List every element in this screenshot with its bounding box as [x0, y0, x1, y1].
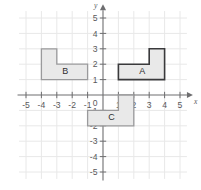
y-axis-tick-label: 3	[93, 44, 98, 54]
y-axis-tick-label: 2	[93, 59, 98, 69]
coordinate-plane-svg: -5-4-3-2-112345-5-4-3-2-1123450xyABC	[0, 0, 201, 190]
shape-label-b: B	[62, 66, 68, 76]
x-axis-name: x	[193, 97, 198, 106]
x-axis-tick-label: 4	[162, 100, 167, 110]
shape-label-c: C	[108, 112, 115, 122]
y-axis-tick-label: -5	[90, 167, 98, 177]
x-axis-tick-label: -2	[68, 100, 76, 110]
x-axis-tick-label: -5	[22, 100, 30, 110]
y-axis-tick-label: 4	[93, 29, 98, 39]
x-axis-tick-label: -4	[38, 100, 46, 110]
x-axis-tick-label: 3	[147, 100, 152, 110]
shape-b: B	[41, 49, 87, 80]
x-axis-arrow-icon	[187, 92, 193, 98]
y-axis-tick-label: -4	[90, 152, 98, 162]
axis-names: xy	[93, 1, 198, 106]
origin-label: 0	[93, 98, 98, 108]
y-axis-tick-label: 5	[93, 13, 98, 23]
shape-a: A	[118, 49, 164, 80]
y-axis-name: y	[93, 1, 98, 10]
y-axis-tick-label: -3	[90, 136, 98, 146]
x-axis-tick-label: 5	[178, 100, 183, 110]
y-axis-tick-label: 1	[93, 75, 98, 85]
axes	[18, 4, 193, 180]
y-axis-arrow-icon	[100, 4, 106, 10]
coordinate-plane-figure: -5-4-3-2-112345-5-4-3-2-1123450xyABC	[0, 0, 201, 190]
shape-label-a: A	[139, 66, 145, 76]
x-axis-tick-label: -3	[53, 100, 61, 110]
